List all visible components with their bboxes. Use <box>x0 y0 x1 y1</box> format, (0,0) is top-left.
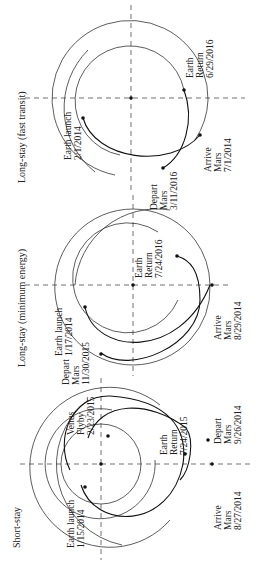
label-arrive-mars: Arrive <box>213 315 223 340</box>
svg-text:2/1/2014: 2/1/2014 <box>73 126 83 160</box>
svg-text:Return: Return <box>144 252 154 278</box>
earth-launch-point <box>83 305 87 309</box>
panel-title: Short-stay <box>11 507 22 548</box>
label-arrive-mars: Arrive <box>213 505 223 530</box>
trajectory-outbound <box>85 285 210 342</box>
svg-text:1/15/2014: 1/15/2014 <box>76 509 86 548</box>
mars-orbit <box>55 209 210 365</box>
svg-text:Mars: Mars <box>71 365 81 385</box>
svg-text:7/24/2016: 7/24/2016 <box>154 239 164 278</box>
trajectory-outbound <box>83 118 200 156</box>
svg-text:Mars: Mars <box>223 424 233 444</box>
svg-text:8/27/2014: 8/27/2014 <box>233 491 243 530</box>
mission-trajectory-diagram: Short-stay Earth launch 1/15/2014 Venus … <box>0 0 262 564</box>
depart-mars-point <box>99 352 103 356</box>
arrive-mars-point <box>210 462 214 466</box>
sun-marker <box>131 283 135 287</box>
svg-text:1/17/2014: 1/17/2014 <box>64 317 74 356</box>
earth-launch-point <box>81 116 85 120</box>
svg-text:Mars: Mars <box>223 510 233 530</box>
label-depart-mars: Depart <box>61 359 71 385</box>
trajectory-return <box>163 90 188 168</box>
svg-text:3/11/2016: 3/11/2016 <box>169 172 179 210</box>
label-earth-launch: Earth launch <box>54 307 64 356</box>
panel-title: Long-stay (minimum energy) <box>16 249 28 367</box>
label-earth-launch: Earth launch <box>63 111 73 160</box>
mars-orbit <box>30 387 170 547</box>
venus-flyby-point <box>106 434 110 438</box>
svg-text:8/29/2014: 8/29/2014 <box>233 301 243 340</box>
earth-return-point <box>175 254 179 258</box>
depart-mars-point <box>206 438 210 442</box>
sun-marker <box>99 462 103 466</box>
svg-text:9/26/2014: 9/26/2014 <box>233 405 243 444</box>
label-earth-return: Earth <box>185 57 195 78</box>
label-depart-mars: Depart <box>149 184 159 210</box>
svg-text:Mars: Mars <box>223 320 233 340</box>
panel-short-stay: Short-stay Earth launch 1/15/2014 Venus … <box>11 378 250 560</box>
svg-text:Flyby: Flyby <box>76 413 86 435</box>
label-earth-return: Earth <box>134 257 144 278</box>
svg-text:Mars: Mars <box>159 190 169 210</box>
earth-return-point <box>182 88 186 92</box>
panel-long-stay-min-energy: Long-stay (minimum energy) Earth launch … <box>16 195 243 385</box>
label-depart-mars: Depart <box>213 418 223 444</box>
arrive-mars-point <box>210 283 214 287</box>
label-arrive-mars: Arrive <box>203 147 213 172</box>
svg-text:7/24/2015: 7/24/2015 <box>179 416 189 455</box>
sun-marker <box>129 96 133 100</box>
label-venus-flyby: Venus <box>66 411 76 435</box>
svg-text:11/30/2015: 11/30/2015 <box>81 342 91 385</box>
svg-text:Mars: Mars <box>213 152 223 172</box>
arrive-mars-point <box>198 133 202 137</box>
label-earth-return: Earth <box>159 434 169 455</box>
panel-long-stay-fast-transit: Long-stay (fast transit) Earth launch 2/… <box>16 5 245 210</box>
earth-orbit <box>75 46 184 155</box>
label-earth-launch: Earth launch <box>66 499 76 548</box>
svg-text:Return: Return <box>195 52 205 78</box>
panel-title: Long-stay (fast transit) <box>16 91 28 183</box>
svg-text:7/1/2014: 7/1/2014 <box>223 138 233 172</box>
svg-text:2/23/2015: 2/23/2015 <box>86 396 96 435</box>
earth-launch-point <box>83 485 87 489</box>
svg-text:6/29/2016: 6/29/2016 <box>205 39 215 78</box>
svg-text:Return: Return <box>169 429 179 455</box>
depart-mars-point <box>161 166 165 170</box>
